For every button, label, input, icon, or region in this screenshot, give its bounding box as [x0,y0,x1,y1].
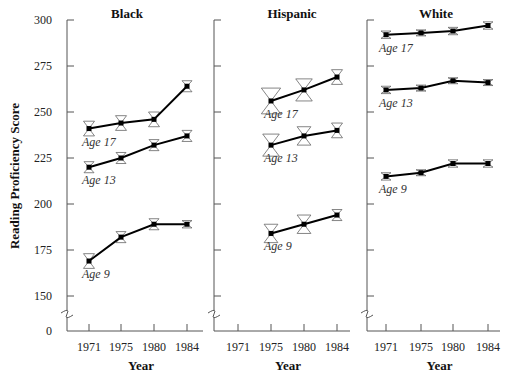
panel-title: Black [111,6,144,21]
y-tick-label: 300 [34,13,52,27]
x-tick-label: 1975 [409,340,433,354]
series-age-9: Age 9 [378,160,493,197]
x-tick-label: 1980 [142,340,166,354]
axis-break-mark [361,310,373,317]
data-point [384,32,389,37]
series-age-13: Age 13 [263,123,343,165]
data-point [451,29,456,34]
x-axis-label: Year [128,358,154,373]
data-point [119,121,124,126]
series-label: Age 17 [81,135,117,149]
series-label: Age 13 [378,96,413,110]
series-label: Age 13 [81,173,116,187]
x-tick-label: 1975 [259,340,283,354]
data-point [384,174,389,179]
series-line [386,164,488,177]
data-point [119,156,124,161]
data-point [152,117,157,122]
series-age-9: Age 9 [81,219,192,281]
y-tick-label: 250 [34,105,52,119]
series-line [386,81,488,90]
data-point [269,98,274,103]
x-tick-label: 1971 [374,340,398,354]
data-point [335,128,340,133]
data-point [335,213,340,218]
data-point [269,231,274,236]
x-axis-line [214,318,350,331]
data-point [302,87,307,92]
data-point [419,170,424,175]
series-label: Age 17 [378,41,414,55]
series-label: Age 17 [263,107,299,121]
panel-title: Hispanic [267,6,316,21]
x-tick-label: 1971 [77,340,101,354]
x-axis-label: Year [427,358,453,373]
data-point [486,80,491,85]
data-point [451,78,456,83]
data-point [185,222,190,227]
data-point [486,161,491,166]
y-tick-label: 200 [34,197,52,211]
data-point [185,84,190,89]
data-point [335,75,340,80]
y-tick-label: 175 [34,243,52,257]
axis-break-mark [208,310,220,317]
x-axis-line [367,318,500,331]
reading-proficiency-chart: Reading Proficiency Score 01501752002252… [0,0,508,379]
data-point [384,87,389,92]
x-tick-label: 1984 [325,340,349,354]
data-point [185,133,190,138]
x-tick-label: 1975 [109,340,133,354]
series-line [386,26,488,35]
data-point [87,165,92,170]
x-axis-label: Year [275,358,301,373]
panel-title: White [419,6,453,21]
data-point [152,143,157,148]
y-axis-ticks: 0150175200225250275300 [34,13,52,338]
data-point [87,126,92,131]
x-tick-label: 1984 [476,340,500,354]
series-age-9: Age 9 [263,210,342,254]
panel-white: White1971197519801984YearAge 17Age 13Age… [361,6,500,373]
data-point [419,86,424,91]
series-label: Age 13 [263,151,298,165]
y-tick-label: 150 [34,289,52,303]
data-point [87,259,92,264]
x-tick-label: 1980 [441,340,465,354]
y-axis-label: Reading Proficiency Score [7,103,22,249]
series-label: Age 9 [263,239,292,253]
panel-black: Black1971197519801984YearAge 17Age 13Age… [61,6,203,373]
data-point [451,161,456,166]
data-point [152,222,157,227]
series-label: Age 9 [81,267,110,281]
panels: Black1971197519801984YearAge 17Age 13Age… [61,6,500,373]
data-point [419,30,424,35]
x-axis-line [67,318,203,331]
data-point [119,235,124,240]
series-line [89,224,187,261]
panel-hispanic: Hispanic1971197519801984YearAge 17Age 13… [208,6,350,373]
y-tick-label: 225 [34,151,52,165]
data-point [269,143,274,148]
data-point [302,133,307,138]
y-tick-label: 275 [34,59,52,73]
y-tick-label: 0 [46,324,52,338]
data-point [302,222,307,227]
data-point [486,23,491,28]
series-label: Age 9 [378,182,407,196]
series-age-17: Age 17 [261,70,342,121]
x-tick-label: 1980 [292,340,316,354]
series-line [89,86,187,128]
axis-break-mark [61,310,73,317]
y-axis-title: Reading Proficiency Score [7,103,22,249]
series-age-17: Age 17 [378,22,493,55]
x-tick-label: 1984 [175,340,199,354]
x-tick-label: 1971 [226,340,250,354]
series-age-13: Age 13 [378,78,493,110]
